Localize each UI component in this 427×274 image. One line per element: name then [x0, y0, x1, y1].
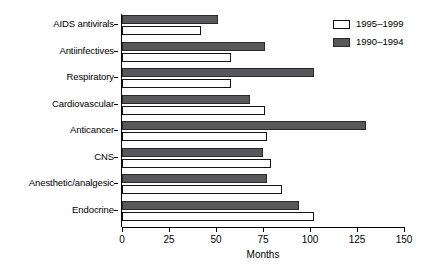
bar-1995-1999: [122, 79, 231, 88]
category-label: Antiinfectives: [59, 46, 114, 56]
category-tick: [114, 210, 118, 211]
bar-1990-1994: [122, 121, 366, 130]
category-tick: [114, 77, 118, 78]
bar-group: [122, 147, 404, 174]
legend-label: 1990–1994: [356, 37, 404, 47]
x-axis-title: Months: [122, 249, 404, 261]
category-axis: AIDS antiviralsAntiinfectivesRespiratory…: [0, 14, 118, 226]
bar-1990-1994: [122, 95, 250, 104]
category-tick: [114, 51, 118, 52]
category-label: Respiratory: [67, 72, 114, 82]
x-tick: [122, 227, 123, 232]
bar-1990-1994: [122, 15, 218, 24]
bar-1995-1999: [122, 159, 271, 168]
bar-1990-1994: [122, 201, 299, 210]
x-tick: [357, 227, 358, 232]
x-tick-label: 50: [210, 234, 221, 245]
x-tick: [404, 227, 405, 232]
x-tick: [310, 227, 311, 232]
bar-1995-1999: [122, 132, 267, 141]
x-tick-label: 25: [163, 234, 174, 245]
legend-swatch-filled-icon: [333, 38, 350, 47]
category-tick: [114, 24, 118, 25]
x-tick: [263, 227, 264, 232]
bar-1990-1994: [122, 68, 314, 77]
x-tick-label: 0: [119, 234, 125, 245]
category-label: Endocrine: [72, 205, 114, 215]
x-tick-label: 150: [396, 234, 413, 245]
bar-1995-1999: [122, 106, 265, 115]
legend-item: 1995–1999: [333, 17, 404, 31]
horizontal-bar-chart: AIDS antiviralsAntiinfectivesRespiratory…: [0, 0, 427, 274]
chart-legend: 1995–19991990–1994: [333, 17, 404, 53]
bar-group: [122, 200, 404, 227]
category-label: CNS: [94, 152, 114, 162]
category-tick: [114, 130, 118, 131]
category-tick: [114, 104, 118, 105]
category-label: Anticancer: [70, 125, 114, 135]
bar-group: [122, 67, 404, 94]
category-tick: [114, 157, 118, 158]
category-label: Cardiovascular: [52, 99, 114, 109]
bar-1990-1994: [122, 148, 263, 157]
category-label: AIDS antivirals: [53, 19, 114, 29]
legend-swatch-open-icon: [333, 20, 350, 29]
category-tick: [114, 183, 118, 184]
x-axis-line: 0255075100125150: [122, 227, 404, 228]
bar-group: [122, 173, 404, 200]
bar-1995-1999: [122, 212, 314, 221]
category-label: Anesthetic/analgesic: [29, 178, 114, 188]
x-tick-label: 75: [257, 234, 268, 245]
bar-1995-1999: [122, 53, 231, 62]
x-tick: [169, 227, 170, 232]
bar-group: [122, 120, 404, 147]
x-tick-label: 100: [302, 234, 319, 245]
bar-1995-1999: [122, 26, 201, 35]
legend-label: 1995–1999: [356, 19, 404, 29]
bar-1990-1994: [122, 174, 267, 183]
legend-item: 1990–1994: [333, 35, 404, 49]
bar-1995-1999: [122, 185, 282, 194]
bar-1990-1994: [122, 42, 265, 51]
x-tick: [216, 227, 217, 232]
bar-group: [122, 94, 404, 121]
x-tick-label: 125: [349, 234, 366, 245]
